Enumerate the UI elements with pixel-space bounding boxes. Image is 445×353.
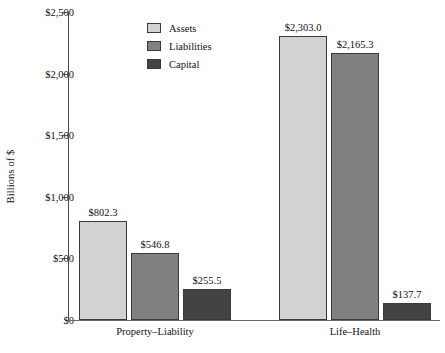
bar-chart: Billions of $ $0$500$1,000$1,500$2,000$2… xyxy=(0,0,445,353)
y-axis-tick-label: $0 xyxy=(18,315,74,326)
legend-item: Liabilities xyxy=(147,38,212,54)
legend-item-label: Capital xyxy=(169,59,199,70)
bar-value-label: $546.8 xyxy=(141,239,170,250)
x-axis-category-label: Life–Health xyxy=(330,326,381,337)
y-axis-title-text: Billions of $ xyxy=(6,150,17,204)
bar-value-label: $2,303.0 xyxy=(285,22,322,33)
legend-item-label: Liabilities xyxy=(169,41,212,52)
bar xyxy=(79,221,127,320)
x-axis-line xyxy=(68,320,440,321)
bar xyxy=(131,253,179,320)
bar-value-label: $137.7 xyxy=(393,289,422,300)
legend-item-label: Assets xyxy=(169,23,196,34)
legend-swatch-icon xyxy=(147,23,161,33)
legend-swatch-icon xyxy=(147,41,161,51)
x-axis-category-label: Property–Liability xyxy=(116,326,194,337)
legend-item: Assets xyxy=(147,20,212,36)
legend-item: Capital xyxy=(147,56,212,72)
bar xyxy=(331,53,379,320)
y-axis-title: Billions of $ xyxy=(2,0,20,353)
bar xyxy=(183,289,231,320)
bar-value-label: $2,165.3 xyxy=(337,39,374,50)
y-axis-line xyxy=(68,12,69,321)
bar xyxy=(279,36,327,320)
bar xyxy=(383,303,431,320)
legend-swatch-icon xyxy=(147,59,161,69)
bar-value-label: $255.5 xyxy=(193,275,222,286)
bar-value-label: $802.3 xyxy=(89,207,118,218)
legend: AssetsLiabilitiesCapital xyxy=(147,20,212,74)
